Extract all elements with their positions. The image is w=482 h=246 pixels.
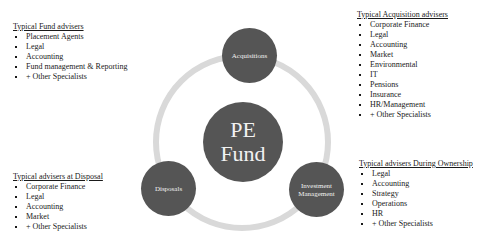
list-item: HR — [359, 209, 473, 219]
disposals-label: Disposals — [155, 185, 182, 193]
investment-management-node: Investment Management — [289, 162, 344, 217]
list-item: Accounting — [357, 40, 448, 50]
disposal-advisers-list: Corporate Finance Legal Accounting Marke… — [13, 182, 103, 232]
investment-label-line1: Investment — [298, 182, 335, 190]
list-item: IT — [357, 70, 448, 80]
list-item: Accounting — [359, 179, 473, 189]
list-item: + Other Specialists — [359, 219, 473, 229]
list-item: Corporate Finance — [13, 182, 103, 192]
list-item: Placement Agents — [13, 32, 128, 42]
list-item: Legal — [13, 192, 103, 202]
list-item: + Other Specialists — [357, 110, 448, 120]
list-item: Corporate Finance — [357, 20, 448, 30]
list-item: Market — [357, 50, 448, 60]
acquisition-advisers-block: Typical Acquisition advisers Corporate F… — [357, 10, 448, 120]
ownership-advisers-list: Legal Accounting Strategy Operations HR … — [359, 169, 473, 229]
list-item: Legal — [13, 42, 128, 52]
list-item: Legal — [357, 30, 448, 40]
list-item: Legal — [359, 169, 473, 179]
disposals-node: Disposals — [141, 161, 196, 216]
disposal-advisers-title: Typical advisers at Disposal — [13, 172, 103, 182]
list-item: Operations — [359, 199, 473, 209]
acquisition-advisers-list: Corporate Finance Legal Accounting Marke… — [357, 20, 448, 120]
list-item: Market — [13, 212, 103, 222]
fund-advisers-list: Placement Agents Legal Accounting Fund m… — [13, 32, 128, 82]
list-item: Accounting — [13, 52, 128, 62]
list-item: Strategy — [359, 189, 473, 199]
pe-fund-line1: PE — [220, 118, 265, 142]
list-item: Fund management & Reporting — [13, 62, 128, 72]
list-item: + Other Specialists — [13, 72, 128, 82]
list-item: HR/Management — [357, 100, 448, 110]
pe-fund-line2: Fund — [220, 142, 265, 166]
disposal-advisers-block: Typical advisers at Disposal Corporate F… — [13, 172, 103, 232]
list-item: Pensions — [357, 80, 448, 90]
ownership-advisers-block: Typical advisers During Ownership Legal … — [359, 159, 473, 229]
list-item: Accounting — [13, 202, 103, 212]
acquisition-advisers-title: Typical Acquisition advisers — [357, 10, 448, 20]
list-item: Insurance — [357, 90, 448, 100]
pe-fund-node: PE Fund — [203, 102, 283, 182]
acquisitions-label: Acquisitions — [232, 52, 267, 60]
ownership-advisers-title: Typical advisers During Ownership — [359, 159, 473, 169]
fund-advisers-title: Typical Fund advisers — [13, 22, 128, 32]
list-item: + Other Specialists — [13, 222, 103, 232]
investment-label-line2: Management — [298, 190, 335, 198]
fund-advisers-block: Typical Fund advisers Placement Agents L… — [13, 22, 128, 82]
list-item: Environmental — [357, 60, 448, 70]
acquisitions-node: Acquisitions — [222, 28, 277, 83]
